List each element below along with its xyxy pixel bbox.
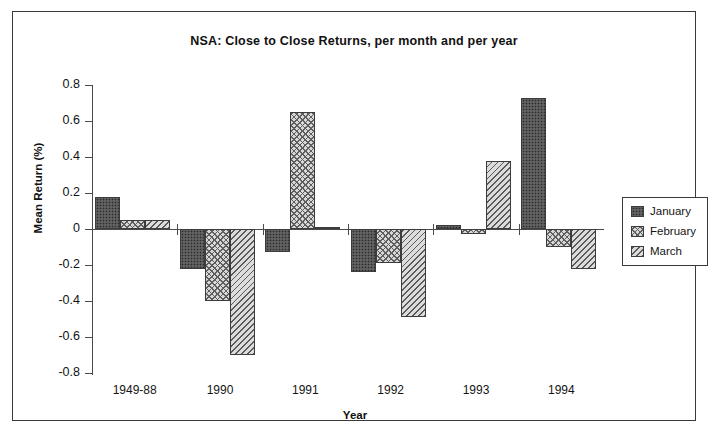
y-axis-tick [85, 193, 92, 194]
legend-label: January [650, 205, 691, 217]
chart-legend: JanuaryFebruaryMarch [622, 197, 708, 266]
legend-swatch-icon [631, 226, 644, 237]
x-axis-category-label: 1949-88 [92, 383, 177, 397]
legend-item-january[interactable]: January [631, 205, 701, 217]
x-axis-category-label: 1991 [263, 383, 348, 397]
bar-february-1991 [290, 112, 315, 229]
x-axis-tick [433, 224, 434, 235]
bar-march-1991 [315, 227, 340, 229]
legend-item-march[interactable]: March [631, 245, 701, 257]
x-axis-tick [348, 224, 349, 235]
y-axis-tick-label: 0.2 [35, 185, 80, 199]
y-axis-tick-label: 0.6 [35, 113, 80, 127]
bar-january-1991 [265, 229, 290, 252]
legend-swatch-icon [631, 246, 644, 257]
chart-frame: NSA: Close to Close Returns, per month a… [12, 11, 696, 421]
bar-january-1949-88 [95, 197, 120, 229]
bar-february-1949-88 [120, 220, 145, 229]
y-axis-tick-label: 0.4 [35, 149, 80, 163]
y-axis-tick [85, 85, 92, 86]
y-axis-tick [85, 265, 92, 266]
bar-march-1994 [571, 229, 596, 269]
y-axis-tick-label: 0 [35, 221, 80, 235]
y-axis-tick-label: -0.2 [35, 257, 80, 271]
y-axis-tick [85, 301, 92, 302]
x-axis-category-label: 1994 [519, 383, 604, 397]
y-axis-tick [85, 373, 92, 374]
bar-january-1990 [180, 229, 205, 269]
chart-title: NSA: Close to Close Returns, per month a… [13, 34, 695, 48]
x-axis-tick [177, 224, 178, 235]
bar-january-1992 [351, 229, 376, 272]
legend-item-february[interactable]: February [631, 225, 701, 237]
bar-march-1992 [401, 229, 426, 317]
x-axis-title: Year [13, 409, 697, 421]
x-axis-category-label: 1992 [348, 383, 433, 397]
y-axis-tick-label: -0.8 [35, 365, 80, 379]
bar-february-1992 [376, 229, 401, 263]
bar-march-1993 [486, 161, 511, 229]
y-axis-line [92, 85, 93, 375]
bar-february-1990 [205, 229, 230, 301]
bar-march-1949-88 [145, 220, 170, 229]
y-axis-tick [85, 121, 92, 122]
y-axis-tick [85, 337, 92, 338]
bar-january-1994 [521, 98, 546, 229]
x-axis-tick [519, 224, 520, 235]
y-axis-tick-label: -0.6 [35, 329, 80, 343]
y-axis-tick-label: -0.4 [35, 293, 80, 307]
bar-march-1990 [230, 229, 255, 355]
bar-february-1993 [461, 229, 486, 234]
legend-swatch-icon [631, 206, 644, 217]
x-axis-category-label: 1993 [433, 383, 518, 397]
bar-february-1994 [546, 229, 571, 247]
x-axis-category-label: 1990 [177, 383, 262, 397]
x-axis-tick [263, 224, 264, 235]
bar-january-1993 [436, 225, 461, 229]
y-axis-tick [85, 157, 92, 158]
y-axis-tick-label: 0.8 [35, 77, 80, 91]
y-axis-tick [85, 229, 92, 230]
y-axis-tick-labels: 0.80.60.40.20-0.2-0.4-0.6-0.8 [13, 12, 83, 436]
legend-label: March [650, 245, 682, 257]
legend-label: February [650, 225, 696, 237]
